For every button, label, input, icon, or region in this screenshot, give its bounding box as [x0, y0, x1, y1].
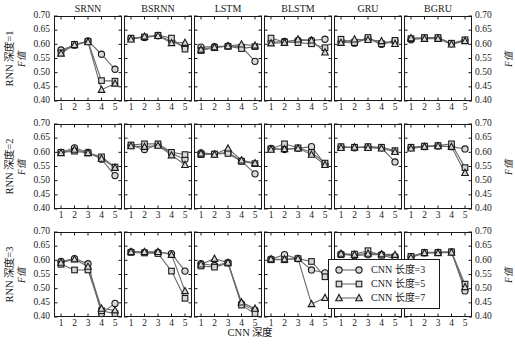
legend-marker-circle — [333, 263, 365, 277]
panel-gru-row2 — [334, 124, 402, 209]
legend-label: CNN 长度=5 — [371, 277, 425, 291]
plot-area — [404, 16, 472, 101]
x-tick-label: 5 — [387, 319, 403, 329]
panel-bsrnn-row3 — [124, 232, 192, 317]
y-tick-label-right: 0.50 — [475, 68, 503, 78]
y-tick-label-right: 0.40 — [475, 204, 503, 214]
legend-box: CNN 长度=3CNN 长度=5CNN 长度=7 — [328, 259, 440, 309]
y-tick-label: 0.65 — [22, 25, 50, 35]
data-point-circle — [182, 268, 188, 274]
x-tick-label: 5 — [387, 211, 403, 221]
y-tick-label: 0.65 — [22, 133, 50, 143]
panel-blstm-row3 — [264, 232, 332, 317]
x-tick-label: 5 — [317, 319, 333, 329]
y-tick-label-right: 0.70 — [475, 119, 503, 129]
legend-marker-square — [333, 277, 365, 291]
data-point-square — [182, 296, 188, 302]
right-axis-caption: F值 — [502, 124, 514, 209]
data-point-circle — [308, 267, 314, 273]
plot-area — [124, 16, 192, 101]
legend-item-1[interactable]: CNN 长度=3 — [333, 263, 434, 277]
series-line — [411, 146, 465, 173]
series-line — [201, 263, 255, 311]
y-tick-label-right: 0.65 — [475, 133, 503, 143]
data-point-square — [182, 46, 188, 52]
data-point-circle — [112, 66, 118, 72]
y-tick-label: 0.70 — [22, 11, 50, 21]
y-tick-label-right: 0.55 — [475, 54, 503, 64]
y-tick-label: 0.40 — [22, 204, 50, 214]
data-point-triangle — [308, 300, 315, 306]
y-tick-label: 0.50 — [22, 68, 50, 78]
panel-bsrnn-row2 — [124, 124, 192, 209]
data-point-triangle — [98, 86, 105, 92]
legend-marker-triangle — [333, 291, 365, 305]
y-tick-label: 0.60 — [22, 148, 50, 158]
plot-area — [194, 232, 262, 317]
x-tick-label: 5 — [177, 211, 193, 221]
plot-area — [124, 124, 192, 209]
y-tick-label: 0.55 — [22, 162, 50, 172]
data-point-circle — [392, 159, 398, 165]
data-point-square — [182, 152, 188, 158]
data-point-square — [212, 264, 218, 270]
data-point-circle — [252, 171, 258, 177]
y-tick-label-right: 0.70 — [475, 11, 503, 21]
panel-title-bsrnn: BSRNN — [124, 3, 192, 15]
y-tick-label: 0.50 — [22, 284, 50, 294]
data-point-square — [99, 78, 105, 84]
plot-area — [54, 16, 122, 101]
y-tick-label-right: 0.50 — [475, 176, 503, 186]
panel-blstm-row1: BLSTM — [264, 16, 332, 101]
data-point-circle — [462, 146, 468, 152]
panel-title-lstm: LSTM — [194, 3, 262, 15]
right-axis-caption-text: F值 — [501, 159, 515, 175]
panel-title-blstm: BLSTM — [264, 3, 332, 15]
y-tick-label-right: 0.45 — [475, 298, 503, 308]
series-line — [131, 252, 185, 291]
y-tick-label-right: 0.55 — [475, 162, 503, 172]
data-point-square — [169, 268, 175, 274]
legend-item-2[interactable]: CNN 长度=5 — [333, 277, 434, 291]
plot-area — [54, 232, 122, 317]
plot-area — [264, 124, 332, 209]
panel-lstm-row1: LSTM — [194, 16, 262, 101]
y-tick-label-right: 0.55 — [475, 270, 503, 280]
panel-blstm-row2 — [264, 124, 332, 209]
x-axis-caption: CNN 深度 — [190, 324, 310, 339]
right-axis-caption-text: F值 — [501, 267, 515, 283]
panel-bgru-row1: BGRU — [404, 16, 472, 101]
y-tick-label-right: 0.50 — [475, 284, 503, 294]
right-axis-caption-text: F值 — [501, 51, 515, 67]
y-tick-label: 0.55 — [22, 270, 50, 280]
right-axis-caption: F值 — [502, 16, 514, 101]
panel-lstm-row3 — [194, 232, 262, 317]
y-tick-label: 0.60 — [22, 40, 50, 50]
y-tick-label-right: 0.65 — [475, 25, 503, 35]
legend-item-3[interactable]: CNN 长度=7 — [333, 291, 434, 305]
series-line — [271, 259, 325, 304]
panel-title-gru: GRU — [334, 3, 402, 15]
data-point-triangle — [211, 255, 218, 261]
data-point-circle — [98, 51, 104, 57]
y-tick-label: 0.65 — [22, 241, 50, 251]
plot-area — [54, 124, 122, 209]
y-tick-label-right: 0.45 — [475, 190, 503, 200]
data-point-square — [72, 267, 78, 273]
x-tick-label: 5 — [107, 103, 123, 113]
y-tick-label-right: 0.60 — [475, 256, 503, 266]
panel-srnn-row3 — [54, 232, 122, 317]
x-tick-label: 5 — [177, 103, 193, 113]
legend-label: CNN 长度=3 — [371, 263, 425, 277]
series-line — [61, 42, 115, 90]
legend-label: CNN 长度=7 — [371, 291, 425, 305]
y-tick-label-right: 0.40 — [475, 96, 503, 106]
data-point-circle — [252, 58, 258, 64]
plot-area — [264, 16, 332, 101]
panel-bsrnn-row1: BSRNN — [124, 16, 192, 101]
data-point-triangle — [182, 287, 189, 293]
panel-lstm-row2 — [194, 124, 262, 209]
x-tick-label: 5 — [457, 103, 473, 113]
plot-area — [264, 232, 332, 317]
